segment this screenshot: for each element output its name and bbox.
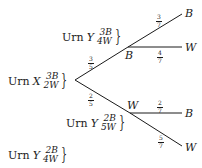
prob-b-b: 37 xyxy=(156,14,162,28)
edge-W-to-W xyxy=(130,113,182,146)
prob-root-b: 35 xyxy=(88,56,94,70)
node-b: B xyxy=(125,50,133,61)
edge-root-to-W xyxy=(75,80,130,113)
brace-icon: } xyxy=(119,115,125,131)
prob-w-w: 57 xyxy=(158,135,164,149)
outcome-bw: W xyxy=(185,42,196,53)
urn-contents: 2B 4W xyxy=(43,146,58,164)
urn-contents: 3B 2W xyxy=(43,72,58,90)
brace-icon: } xyxy=(61,147,67,163)
urn-x-root: Urn X 3B 2W } xyxy=(8,72,70,90)
prob-b-w: 47 xyxy=(157,50,163,64)
outcome-bb: B xyxy=(185,8,193,19)
outcome-ww: W xyxy=(185,142,196,153)
edge-B-to-B xyxy=(128,14,182,47)
urn-y-after-white: Urn Y 2B 5W } xyxy=(66,114,127,132)
urn-contents: 2B 5W xyxy=(101,114,116,132)
urn-contents: 3B 4W xyxy=(97,28,112,46)
outcome-wb: B xyxy=(185,108,193,119)
edge-root-to-B xyxy=(75,47,128,80)
brace-icon: } xyxy=(115,29,121,45)
prob-root-w: 25 xyxy=(88,93,94,107)
urn-y-after-black: Urn Y 3B 4W } xyxy=(62,28,123,46)
node-w: W xyxy=(127,100,138,111)
prob-w-b: 27 xyxy=(157,100,163,114)
urn-y-initial: Urn Y 2B 4W } xyxy=(8,146,69,164)
brace-icon: } xyxy=(61,73,67,89)
